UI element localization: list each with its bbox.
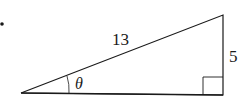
right-triangle (21, 15, 223, 95)
triangle-diagram: 13 5 θ (0, 0, 249, 105)
angle-theta-label: θ (75, 75, 83, 92)
right-angle-marker (203, 77, 223, 95)
bullet-dot (0, 22, 4, 26)
angle-arc (67, 76, 69, 93)
hypotenuse-label: 13 (112, 30, 129, 49)
opposite-side-label: 5 (229, 47, 238, 66)
adjacent-side (21, 93, 223, 95)
